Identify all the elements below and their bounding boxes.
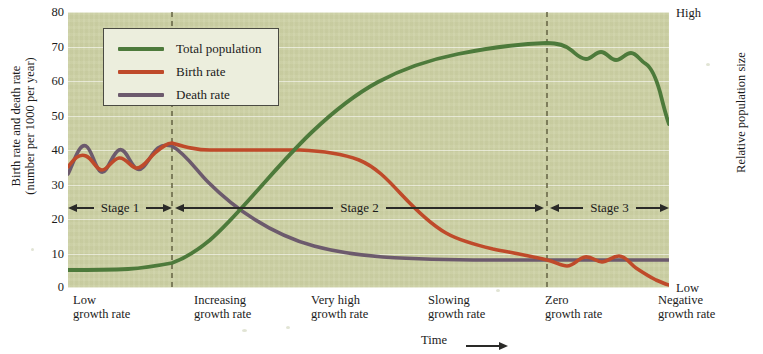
y-tick-0: 0: [24, 281, 64, 293]
caption-line1: Zero: [545, 293, 602, 307]
stage-label-2: Stage 2: [333, 200, 386, 216]
y-tick-high: High: [676, 6, 701, 21]
caption-slowing-growth: Slowing growth rate: [428, 293, 485, 321]
stage-bar-1: Stage 1: [68, 198, 172, 218]
caption-negative-growth: Negative growth rate: [658, 293, 715, 321]
caption-increasing-growth: Increasing growth rate: [194, 293, 251, 321]
stage-label-1: Stage 1: [94, 200, 147, 216]
arrow-right-icon: [660, 204, 669, 212]
scan-fleck: [31, 248, 34, 251]
caption-line2: growth rate: [428, 307, 485, 321]
legend-item-birth-rate: Birth rate: [104, 60, 278, 83]
chart-figure: Stage 1 Stage 2 Stage 3 Total population: [0, 0, 763, 354]
y-axis-left-title-line1: Birth rate and death rate: [9, 11, 23, 241]
legend-label-birth-rate: Birth rate: [176, 64, 225, 80]
y-tick-10: 10: [24, 248, 64, 260]
caption-low-growth: Low growth rate: [73, 293, 130, 321]
legend: Total population Birth rate Death rate: [103, 28, 279, 106]
caption-line2: growth rate: [194, 307, 251, 321]
arrow-left-icon: [68, 204, 77, 212]
arrow-right-icon: [499, 342, 508, 350]
scan-fleck: [286, 326, 290, 329]
caption-very-high-growth: Very high growth rate: [311, 293, 368, 321]
scan-fleck: [706, 63, 710, 66]
x-axis-arrow-line: [466, 345, 499, 347]
y-axis-right-title: Relative population size: [734, 13, 749, 213]
legend-item-total-population: Total population: [104, 37, 278, 60]
arrow-right-icon: [163, 204, 172, 212]
caption-line1: Negative: [658, 293, 715, 307]
y-axis-left-title: Birth rate and death rate (number per 10…: [9, 11, 37, 241]
scan-fleck: [242, 329, 247, 332]
stage-label-3: Stage 3: [583, 200, 636, 216]
arrow-left-icon: [175, 204, 184, 212]
caption-line1: Slowing: [428, 293, 485, 307]
arrow-right-icon: [535, 204, 544, 212]
x-axis-title: Time: [421, 333, 447, 348]
legend-label-total-population: Total population: [176, 41, 261, 57]
legend-swatch-total-population: [118, 47, 164, 51]
arrow-left-icon: [550, 204, 559, 212]
caption-line2: growth rate: [658, 307, 715, 321]
stage-rule: [146, 207, 163, 209]
legend-label-death-rate: Death rate: [176, 87, 230, 103]
legend-swatch-death-rate: [118, 93, 164, 97]
stage-rule: [386, 207, 535, 209]
stage-rule: [559, 207, 583, 209]
caption-line1: Low: [73, 293, 130, 307]
stage-bar-3: Stage 3: [550, 198, 669, 218]
scan-fleck: [496, 289, 500, 292]
scan-fleck: [14, 118, 17, 121]
caption-line1: Increasing: [194, 293, 251, 307]
x-axis-arrow-icon: [466, 341, 508, 351]
y-axis-left-title-line2: (number per 1000 per year): [23, 11, 37, 241]
caption-zero-growth: Zero growth rate: [545, 293, 602, 321]
caption-line2: growth rate: [545, 307, 602, 321]
caption-line2: growth rate: [311, 307, 368, 321]
legend-swatch-birth-rate: [118, 70, 164, 74]
stage-rule: [636, 207, 660, 209]
stage-rule: [184, 207, 333, 209]
caption-line1: Very high: [311, 293, 368, 307]
stage-bar-2: Stage 2: [175, 198, 544, 218]
legend-item-death-rate: Death rate: [104, 83, 278, 106]
stage-rule: [77, 207, 94, 209]
caption-line2: growth rate: [73, 307, 130, 321]
